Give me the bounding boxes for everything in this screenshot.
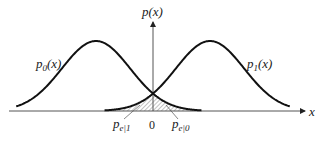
label-p0: p0(x)	[35, 56, 61, 73]
curve-p1	[153, 41, 290, 106]
decision-diagram: p(x) x 0 p0(x) p1(x) pe|1 pe|0	[0, 0, 325, 146]
label-pe1: pe|1	[112, 116, 130, 133]
x-axis-label: x	[308, 104, 315, 119]
y-axis-label: p(x)	[141, 4, 163, 19]
error-region-e0	[153, 94, 201, 111]
error-region-e1	[105, 94, 153, 111]
curve-p0	[16, 41, 153, 106]
origin-label: 0	[149, 118, 155, 132]
label-p1: p1(x)	[246, 56, 272, 73]
label-pe0: pe|0	[171, 116, 190, 133]
